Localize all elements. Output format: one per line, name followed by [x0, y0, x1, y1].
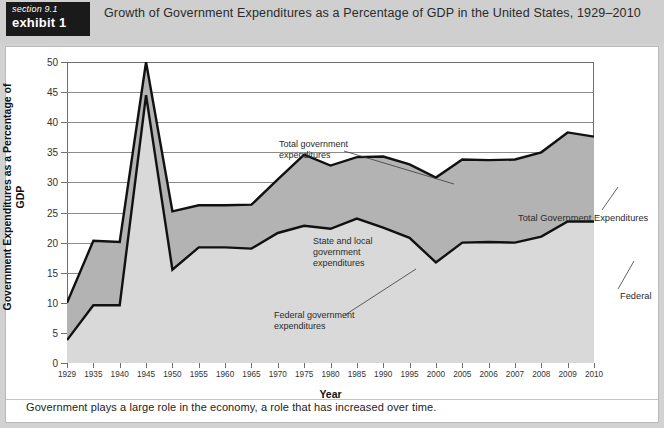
- x-axis-tick: [489, 363, 490, 368]
- exhibit-label: exhibit 1: [12, 15, 86, 30]
- y-axis-tick-label: 45: [47, 87, 58, 98]
- x-axis-tick-label: 2000: [427, 370, 445, 379]
- y-axis-tick-label: 5: [52, 327, 58, 338]
- x-axis-tick: [436, 363, 437, 368]
- exhibit-header: section 9.1 exhibit 1 Growth of Governme…: [0, 0, 664, 44]
- x-axis-tick-label: 1975: [295, 370, 313, 379]
- y-axis-tick-label: 15: [47, 267, 58, 278]
- x-axis-tick-label: 2006: [479, 370, 497, 379]
- x-axis-tick-label: 1935: [84, 370, 102, 379]
- x-axis-tick-label: 2009: [559, 370, 577, 379]
- exhibit-badge: section 9.1 exhibit 1: [6, 2, 90, 36]
- annotation-total-right: Total Government Expenditures: [518, 213, 648, 224]
- annotation-total-government: Total government expenditures: [279, 139, 348, 161]
- x-axis-tick: [304, 363, 305, 368]
- chart-panel: Government Expenditures as a Percentage …: [5, 46, 659, 423]
- x-axis-tick-label: 1970: [269, 370, 287, 379]
- y-axis-tick-label: 0: [52, 358, 58, 369]
- x-axis-tick-label: 2010: [585, 370, 603, 379]
- section-label: section 9.1: [12, 4, 86, 15]
- x-axis-tick: [331, 363, 332, 368]
- x-axis-tick: [172, 363, 173, 368]
- annotation-federal-government: Federal government expenditures: [274, 310, 355, 332]
- x-axis-tick: [594, 363, 595, 368]
- x-axis-tick: [462, 363, 463, 368]
- x-axis-tick: [67, 363, 68, 368]
- x-axis-tick-label: 1965: [242, 370, 260, 379]
- x-axis-tick: [278, 363, 279, 368]
- x-axis-tick-label: 1955: [190, 370, 208, 379]
- x-axis-tick: [120, 363, 121, 368]
- x-axis-tick: [515, 363, 516, 368]
- exhibit-title: Growth of Government Expenditures as a P…: [104, 5, 644, 22]
- x-axis-tick-label: 1990: [374, 370, 392, 379]
- x-axis-tick-label: 2005: [453, 370, 471, 379]
- x-axis-tick-label: 1995: [400, 370, 418, 379]
- annotation-state-and-local: State and local government expenditures: [313, 236, 373, 269]
- x-axis-tick: [410, 363, 411, 368]
- exhibit-caption: Government plays a large role in the eco…: [26, 401, 636, 413]
- x-axis-tick: [568, 363, 569, 368]
- x-axis-tick: [357, 363, 358, 368]
- y-axis-tick-label: 35: [47, 147, 58, 158]
- x-axis-tick-label: 1940: [111, 370, 129, 379]
- x-axis-tick-label: 2007: [506, 370, 524, 379]
- x-axis-tick-label: 1985: [348, 370, 366, 379]
- y-axis-tick-label: 20: [47, 237, 58, 248]
- y-axis-tick-label: 40: [47, 117, 58, 128]
- y-axis-tick-label: 50: [47, 57, 58, 68]
- x-axis-tick-label: 1950: [163, 370, 181, 379]
- y-axis-title: Government Expenditures as a Percentage …: [1, 82, 27, 312]
- x-axis-tick: [251, 363, 252, 368]
- y-axis-tick-label: 25: [47, 207, 58, 218]
- y-axis-tick-label: 30: [47, 177, 58, 188]
- x-axis-tick: [146, 363, 147, 368]
- x-axis-tick: [383, 363, 384, 368]
- x-axis-tick-label: 1929: [58, 370, 76, 379]
- x-axis-tick-label: 1980: [321, 370, 339, 379]
- x-axis-tick-label: 1960: [216, 370, 234, 379]
- y-axis-tick-label: 10: [47, 297, 58, 308]
- exhibit-figure: section 9.1 exhibit 1 Growth of Governme…: [0, 0, 664, 428]
- x-axis-tick: [225, 363, 226, 368]
- x-axis-tick-label: 2008: [532, 370, 550, 379]
- annotation-federal-right: Federal: [620, 291, 652, 302]
- x-axis-tick: [199, 363, 200, 368]
- x-axis-tick-label: 1945: [137, 370, 155, 379]
- x-axis-tick: [541, 363, 542, 368]
- caption-divider: [6, 399, 658, 400]
- x-axis-tick: [93, 363, 94, 368]
